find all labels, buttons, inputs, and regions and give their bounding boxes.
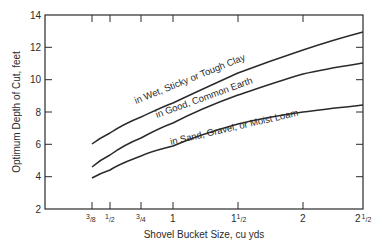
x-tick-2: 2 (300, 213, 306, 224)
y-axis-title: Optimum Depth of Cut, feet (11, 51, 22, 173)
x-tick-1-1-2: 11/2 (231, 213, 246, 224)
y-tick-14: 14 (30, 10, 42, 21)
y-tick-8: 8 (35, 107, 41, 118)
y-tick-2: 2 (35, 204, 41, 215)
curve-label-sand-gravel-loam: in Sand, Gravel, or Moist Loam (169, 107, 299, 147)
curve-good-common-earth (92, 63, 363, 167)
y-tick-labels: 14 12 10 8 6 4 2 (30, 10, 42, 215)
depth-of-cut-chart: 14 12 10 8 6 4 2 3/8 1/2 3/4 1 11/2 2 21… (0, 0, 379, 242)
y-tick-4: 4 (35, 171, 41, 182)
x-axis-title: Shovel Bucket Size, cu yds (144, 229, 265, 240)
x-tick-3-4: 3/4 (136, 213, 146, 223)
x-tick-3-8: 3/8 (86, 213, 96, 223)
x-tick-1-2: 1/2 (105, 213, 115, 223)
curves (92, 32, 363, 178)
x-tick-2-1-2: 21/2 (355, 213, 371, 224)
y-tick-10: 10 (30, 74, 42, 85)
plot-frame (45, 15, 363, 209)
x-tick-1: 1 (170, 213, 176, 224)
y-tick-6: 6 (35, 139, 41, 150)
x-tick-labels: 3/8 1/2 3/4 1 11/2 2 21/2 (86, 213, 371, 224)
y-tick-12: 12 (30, 42, 42, 53)
